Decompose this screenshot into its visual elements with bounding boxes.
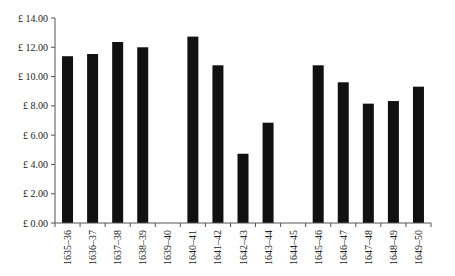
x-tick-label: 1647–48 bbox=[363, 230, 374, 265]
bar-1648–49 bbox=[388, 101, 399, 223]
bar-1635–36 bbox=[62, 56, 73, 223]
bar-1640–41 bbox=[187, 37, 198, 223]
x-tick-label: 1642–43 bbox=[238, 230, 249, 265]
y-tick-label: £ 14.00 bbox=[18, 13, 48, 24]
y-tick-label: £ 4.00 bbox=[23, 159, 48, 170]
x-tick-label: 1649–50 bbox=[413, 230, 424, 265]
bar-1637–38 bbox=[112, 42, 123, 223]
x-tick-label: 1644–45 bbox=[288, 230, 299, 265]
bar-1636–37 bbox=[87, 54, 98, 223]
y-tick-label: £ 6.00 bbox=[23, 130, 48, 141]
x-tick-label: 1637–38 bbox=[112, 230, 123, 265]
y-tick-label: £ 10.00 bbox=[18, 71, 48, 82]
x-tick-label: 1641–42 bbox=[212, 230, 223, 265]
bar-1647–48 bbox=[363, 104, 374, 223]
bar-1645–46 bbox=[313, 65, 324, 223]
x-tick-label: 1638–39 bbox=[137, 230, 148, 265]
bars bbox=[62, 37, 424, 223]
bar-1638–39 bbox=[137, 47, 148, 223]
x-tick-label: 1645–46 bbox=[313, 230, 324, 265]
y-tick-label: £ 0.00 bbox=[23, 218, 48, 229]
y-tick-label: £ 2.00 bbox=[23, 188, 48, 199]
x-tick-label: 1648–49 bbox=[388, 230, 399, 265]
x-tick-label: 1646–47 bbox=[338, 230, 349, 265]
x-tick-label: 1636–37 bbox=[87, 230, 98, 265]
bar-1646–47 bbox=[338, 82, 349, 223]
y-tick-label: £ 8.00 bbox=[23, 100, 48, 111]
bar-1642–43 bbox=[238, 154, 249, 223]
x-tick-label: 1640–41 bbox=[187, 230, 198, 265]
y-tick-label: £ 12.00 bbox=[18, 42, 48, 53]
bar-1641–42 bbox=[212, 65, 223, 223]
x-axis: 1635–361636–371637–381638–391639–401640–… bbox=[55, 223, 431, 265]
x-tick-label: 1639–40 bbox=[162, 230, 173, 265]
bar-1649–50 bbox=[413, 87, 424, 223]
bar-1643–44 bbox=[263, 123, 274, 223]
y-axis: £ 0.00£ 2.00£ 4.00£ 6.00£ 8.00£ 10.00£ 1… bbox=[18, 13, 55, 229]
x-tick-label: 1643–44 bbox=[263, 230, 274, 265]
x-tick-label: 1635–36 bbox=[62, 230, 73, 265]
bar-chart: £ 0.00£ 2.00£ 4.00£ 6.00£ 8.00£ 10.00£ 1… bbox=[0, 0, 455, 276]
